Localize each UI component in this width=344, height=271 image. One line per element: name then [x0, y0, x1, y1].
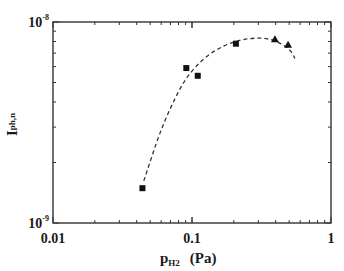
y-tick-labels: 10-910-8 [28, 13, 49, 231]
x-tick-label: 0.1 [183, 231, 201, 246]
chart: 0.010.11 10-910-8 pH2(Pa) Iph,n [0, 0, 344, 271]
x-tick-label: 0.01 [41, 231, 66, 246]
triangle-marker [284, 41, 292, 48]
y-tick-label: 10-9 [28, 214, 49, 231]
data-markers [139, 35, 292, 191]
square-marker [195, 73, 201, 79]
x-tick-label: 1 [328, 231, 335, 246]
y-tick-label: 10-8 [28, 13, 49, 30]
x-axis-label: pH2(Pa) [160, 250, 217, 268]
square-marker [233, 41, 239, 47]
plot-frame [53, 22, 331, 223]
triangle-marker [271, 35, 279, 42]
plot-border [53, 22, 331, 223]
square-marker [183, 65, 189, 71]
axis-ticks [53, 22, 331, 223]
x-tick-labels: 0.010.11 [41, 231, 335, 246]
dashed-fit-line [144, 38, 295, 181]
y-axis-label: Iph,n [4, 113, 20, 136]
square-marker [139, 185, 145, 191]
fit-curve [144, 38, 295, 181]
